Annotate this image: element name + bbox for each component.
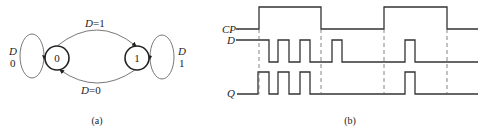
state-0-label: 0 xyxy=(54,52,60,64)
loop-0-var: D xyxy=(8,45,17,57)
loop-1-val: 1 xyxy=(179,57,185,69)
caption-b: (b) xyxy=(344,115,356,127)
signal-d-label: D xyxy=(226,34,235,46)
d-waveform xyxy=(236,40,478,62)
state-1-label: 1 xyxy=(134,52,140,64)
transition-top-label: D=1 xyxy=(84,17,105,29)
transition-1-to-0 xyxy=(60,70,135,83)
transition-bottom-label: D=0 xyxy=(80,84,101,96)
loop-1-var: D xyxy=(177,45,186,57)
loop-0-val: 0 xyxy=(10,57,16,69)
cp-waveform xyxy=(236,7,478,29)
signal-q-label: Q xyxy=(227,87,235,99)
caption-a: (a) xyxy=(91,115,102,127)
transition-0-to-1 xyxy=(57,30,136,46)
timing-diagram: CP D Q (b) xyxy=(222,7,478,127)
state-diagram: 0 1 D=1 D=0 D 0 D 1 (a) xyxy=(8,17,186,127)
figure: 0 1 D=1 D=0 D 0 D 1 (a) CP D Q (b) xyxy=(0,0,480,137)
self-loop-1 xyxy=(150,35,174,79)
q-waveform xyxy=(237,72,478,94)
self-loop-0 xyxy=(20,34,44,78)
